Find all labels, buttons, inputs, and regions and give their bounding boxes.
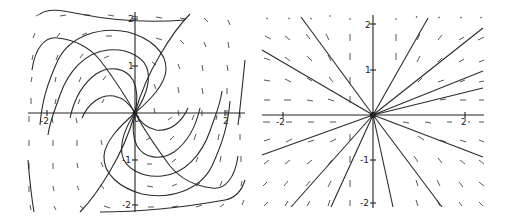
slope-mark xyxy=(479,182,484,186)
slope-mark xyxy=(286,139,292,142)
slope-mark xyxy=(31,77,32,82)
slope-mark xyxy=(459,182,463,187)
slope-mark xyxy=(227,65,228,71)
trajectory-curve xyxy=(104,101,230,196)
slope-mark xyxy=(192,115,194,120)
slope-mark xyxy=(108,15,114,16)
slope-mark xyxy=(328,99,334,101)
trajectory-curve xyxy=(70,69,137,118)
slope-mark xyxy=(403,122,409,123)
trajectory-ray xyxy=(262,50,373,115)
slope-mark xyxy=(156,17,162,18)
slope-mark xyxy=(202,88,203,94)
slope-mark xyxy=(33,33,35,38)
y-label-neg1-left: -1 xyxy=(122,155,131,165)
origin-label-left: 0 xyxy=(134,114,140,124)
slope-mark xyxy=(180,40,184,44)
slope-mark xyxy=(438,35,442,40)
slope-mark xyxy=(285,79,291,82)
slope-mark xyxy=(156,38,162,40)
slope-mark xyxy=(77,163,78,168)
slope-mark xyxy=(264,58,270,60)
x-label-pos2-right: 2 xyxy=(461,117,467,127)
slope-mark xyxy=(460,160,465,164)
slope-mark xyxy=(307,56,312,61)
slope-mark xyxy=(104,56,109,58)
slope-mark xyxy=(80,54,83,58)
slope-mark xyxy=(417,56,420,62)
slope-mark xyxy=(416,180,418,186)
slope-mark xyxy=(56,55,58,60)
slope-mark xyxy=(32,55,33,60)
slope-mark xyxy=(459,59,464,62)
slope-mark xyxy=(284,181,288,186)
slope-mark xyxy=(418,136,424,140)
slope-mark xyxy=(438,80,444,82)
slope-mark xyxy=(264,80,270,81)
slope-mark xyxy=(241,181,242,186)
slope-mark xyxy=(172,184,177,186)
slope-mark xyxy=(438,158,442,163)
slope-mark xyxy=(285,201,288,206)
slope-mark xyxy=(307,201,310,206)
slope-mark xyxy=(196,157,198,162)
trajectory-curve xyxy=(40,30,166,125)
slope-mark xyxy=(220,181,222,186)
slope-mark xyxy=(228,20,230,25)
slope-mark xyxy=(218,134,219,140)
slope-mark xyxy=(204,42,206,47)
slope-mark xyxy=(478,37,484,40)
slope-mark xyxy=(147,186,153,187)
slope-mark xyxy=(479,160,484,164)
slope-mark xyxy=(479,140,484,142)
slope-mark xyxy=(196,205,202,207)
trajectory-curve xyxy=(32,38,135,113)
slope-mark xyxy=(264,139,270,141)
y-label-pos2-left: 2 xyxy=(128,14,134,24)
slope-mark xyxy=(306,181,310,186)
slope-mark xyxy=(154,84,156,89)
trajectory-curve xyxy=(238,60,245,125)
equilibrium-point-left xyxy=(133,111,138,116)
trajectory-ray xyxy=(373,71,483,115)
y-label-pos2-right: 2 xyxy=(365,20,371,30)
slope-mark xyxy=(307,100,313,101)
slope-mark xyxy=(204,18,208,22)
slope-mark xyxy=(328,181,331,187)
slope-mark xyxy=(416,200,418,206)
x-label-neg2-left: -2 xyxy=(40,116,49,126)
slope-mark xyxy=(266,18,268,19)
y-label-pos1-right: 1 xyxy=(365,65,371,75)
slope-mark xyxy=(285,57,290,61)
slope-mark xyxy=(202,65,203,71)
slope-mark xyxy=(326,34,329,40)
slope-mark xyxy=(53,186,54,191)
slope-mark xyxy=(437,180,440,186)
slope-mark xyxy=(55,99,56,104)
x-label-neg2-right: -2 xyxy=(276,117,285,127)
slope-mark xyxy=(479,202,483,206)
slope-mark xyxy=(460,140,466,142)
x-label-pos2-left: 2 xyxy=(223,116,229,126)
slope-mark xyxy=(228,42,229,48)
slope-mark xyxy=(78,99,80,104)
slope-mark xyxy=(328,200,330,206)
slope-mark xyxy=(54,206,56,210)
y-label-pos1-left: 1 xyxy=(128,61,134,71)
slope-mark xyxy=(194,134,196,140)
slope-mark xyxy=(101,162,103,167)
trajectory-curve xyxy=(133,108,200,157)
phase-portrait-figure: -2 2 2 1 -1 -2 0 -2 2 2 1 -1 -2 xyxy=(0,0,510,222)
slope-mark xyxy=(263,182,267,186)
y-label-neg2-left: -2 xyxy=(122,200,131,210)
slope-mark xyxy=(459,202,462,206)
slope-mark xyxy=(438,17,440,18)
slope-mark xyxy=(330,139,336,142)
slope-mark xyxy=(36,14,40,16)
slope-mark xyxy=(285,160,290,164)
slope-mark xyxy=(104,206,110,208)
slope-mark xyxy=(146,138,150,140)
slope-mark xyxy=(308,140,314,142)
slope-mark xyxy=(154,108,155,113)
slope-mark xyxy=(30,205,31,210)
